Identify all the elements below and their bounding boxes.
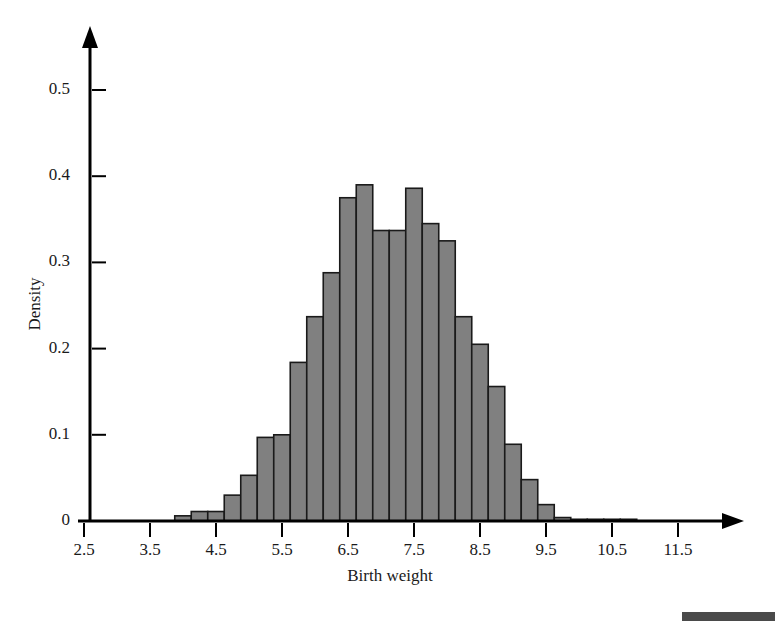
histogram-bar	[307, 317, 324, 521]
x-tick-label: 6.5	[318, 540, 378, 560]
y-tick-label: 0.3	[8, 251, 70, 271]
histogram-bar	[455, 317, 472, 521]
x-tick-label: 4.5	[186, 540, 246, 560]
footer-color-swatch	[682, 612, 775, 621]
histogram-bar	[505, 444, 522, 521]
histogram-bar	[472, 344, 489, 521]
x-tick-label: 7.5	[384, 540, 444, 560]
y-tick-label: 0.4	[8, 165, 70, 185]
y-axis-arrow	[82, 26, 98, 48]
histogram-bar	[290, 362, 307, 521]
x-tick-label: 8.5	[450, 540, 510, 560]
y-tick-label: 0.1	[8, 424, 70, 444]
histogram-bar	[422, 224, 439, 521]
histogram-figure: Density Birth weight 00.10.20.30.40.5 2.…	[0, 0, 775, 628]
histogram-bar	[224, 495, 241, 521]
x-axis-arrow	[722, 513, 744, 529]
histogram-bar	[439, 241, 456, 521]
histogram-bar	[488, 387, 505, 521]
histogram-bar	[340, 198, 357, 521]
y-tick-label: 0.2	[8, 338, 70, 358]
histogram-bar	[241, 475, 258, 521]
x-axis-label: Birth weight	[290, 566, 490, 586]
x-tick-label: 3.5	[120, 540, 180, 560]
histogram-plot	[0, 0, 775, 628]
histogram-bars	[175, 185, 637, 521]
y-tick-label: 0.5	[8, 79, 70, 99]
histogram-bar	[356, 185, 373, 521]
histogram-bar	[323, 273, 340, 521]
x-tick-label: 10.5	[582, 540, 642, 560]
x-tick-label: 5.5	[252, 540, 312, 560]
histogram-bar	[274, 435, 291, 521]
x-tick-label: 11.5	[648, 540, 708, 560]
y-tick-label: 0	[8, 510, 70, 530]
histogram-bar	[521, 480, 538, 521]
histogram-bar	[406, 188, 423, 521]
x-tick-label: 2.5	[54, 540, 114, 560]
histogram-bar	[373, 231, 390, 521]
histogram-bar	[538, 505, 555, 521]
x-tick-label: 9.5	[516, 540, 576, 560]
histogram-bar	[257, 437, 274, 521]
histogram-bar	[389, 231, 406, 521]
